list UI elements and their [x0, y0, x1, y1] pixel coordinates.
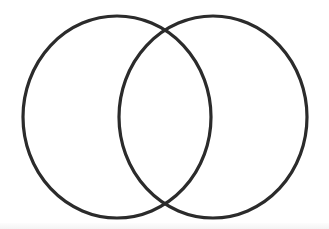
- venn-diagram-canvas: [0, 0, 329, 229]
- figure-background: [0, 0, 329, 229]
- venn-diagram-figure: [0, 0, 329, 229]
